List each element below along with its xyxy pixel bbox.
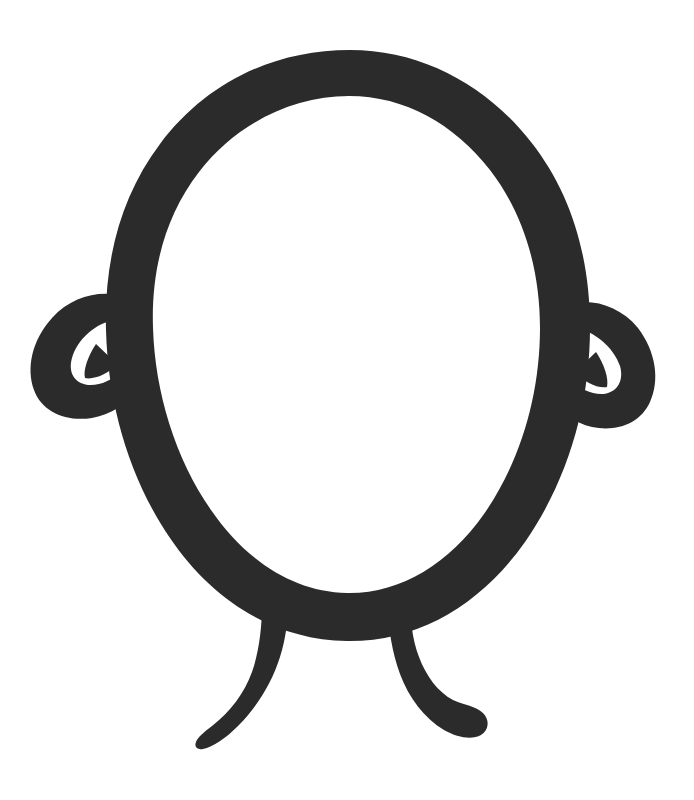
blank-face-doodle bbox=[0, 0, 694, 800]
illustration-canvas: Blank Face Doodle Hand-drawn marker dood… bbox=[0, 0, 694, 800]
